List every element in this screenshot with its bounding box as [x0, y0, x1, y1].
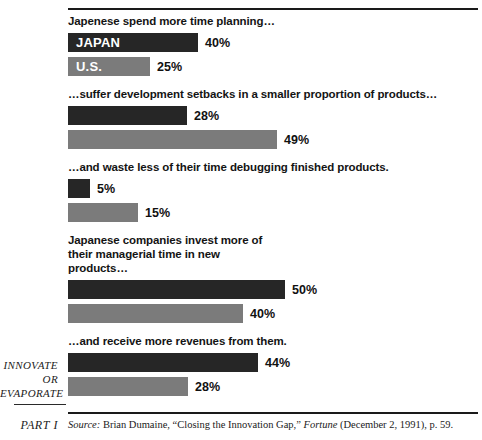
bar-row: 44%: [68, 353, 478, 372]
bar-value-label: 15%: [145, 206, 170, 220]
bar-us: [68, 377, 188, 396]
source-article: “Closing the Innovation Gap,”: [173, 419, 304, 430]
bar-value-label: 25%: [157, 60, 182, 74]
running-head-line-0: INNOVATE: [0, 358, 58, 372]
bar-value-label: 40%: [205, 36, 230, 50]
bar-chart: Japenese spend more time planning…JAPAN4…: [68, 14, 478, 406]
bar-japan: [68, 280, 285, 299]
chart-group: Japanese companies invest more of their …: [68, 233, 478, 323]
chart-group: …and waste less of their time debugging …: [68, 160, 478, 222]
source-author: Brian Dumaine,: [100, 419, 172, 430]
part-label: PART I: [0, 418, 58, 433]
bar-us: [68, 304, 243, 323]
bar-value-label: 50%: [292, 283, 317, 297]
source-note: Source: Brian Dumaine, “Closing the Inno…: [68, 419, 480, 430]
bar-us: U.S.: [68, 57, 150, 76]
margin-divider: [14, 404, 66, 405]
top-divider: [68, 8, 478, 10]
group-heading: Japenese spend more time planning…: [68, 14, 478, 28]
bar-series-label: U.S.: [68, 59, 102, 74]
bar-value-label: 40%: [250, 307, 275, 321]
bar-row: 40%: [68, 304, 478, 323]
group-heading: …suffer development setbacks in a smalle…: [68, 87, 478, 101]
group-heading: Japanese companies invest more of their …: [68, 233, 268, 275]
bar-series-label: JAPAN: [68, 35, 120, 50]
running-head: INNOVATEOREVAPORATE: [0, 358, 58, 400]
chart-group: …suffer development setbacks in a smalle…: [68, 87, 478, 149]
bar-japan: [68, 353, 258, 372]
source-details: (December 2, 1991), p. 59.: [337, 419, 453, 430]
running-head-line-1: OR: [0, 372, 58, 386]
bar-row: 28%: [68, 377, 478, 396]
group-heading: …and receive more revenues from them.: [68, 334, 478, 348]
bar-row: 49%: [68, 130, 478, 149]
bar-japan: [68, 106, 187, 125]
bar-us: [68, 130, 277, 149]
bar-row: 50%: [68, 280, 478, 299]
bar-japan: JAPAN: [68, 33, 198, 52]
source-label: Source:: [68, 419, 100, 430]
figure-page: Japenese spend more time planning…JAPAN4…: [0, 0, 482, 440]
running-head-line-2: EVAPORATE: [0, 386, 58, 400]
bar-us: [68, 203, 138, 222]
bar-value-label: 28%: [195, 380, 220, 394]
bottom-divider: [68, 412, 478, 414]
bar-row: 28%: [68, 106, 478, 125]
bar-value-label: 49%: [284, 133, 309, 147]
bar-value-label: 44%: [265, 356, 290, 370]
bar-value-label: 28%: [194, 109, 219, 123]
bar-value-label: 5%: [97, 182, 115, 196]
bar-japan: [68, 179, 90, 198]
bar-row: 15%: [68, 203, 478, 222]
chart-group: Japenese spend more time planning…JAPAN4…: [68, 14, 478, 76]
chart-group: …and receive more revenues from them.44%…: [68, 334, 478, 396]
bar-row: 5%: [68, 179, 478, 198]
group-heading: …and waste less of their time debugging …: [68, 160, 478, 174]
bar-row: U.S.25%: [68, 57, 478, 76]
bar-row: JAPAN40%: [68, 33, 478, 52]
source-publication: Fortune: [304, 419, 338, 430]
